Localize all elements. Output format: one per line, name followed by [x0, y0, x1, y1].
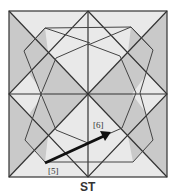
grid-lines: [9, 11, 167, 177]
label-start: [5]: [48, 166, 59, 176]
label-end: [6]: [93, 120, 104, 130]
diagram-canvas: [5] [6] ST: [0, 0, 177, 193]
diagram-caption: ST: [80, 180, 96, 193]
